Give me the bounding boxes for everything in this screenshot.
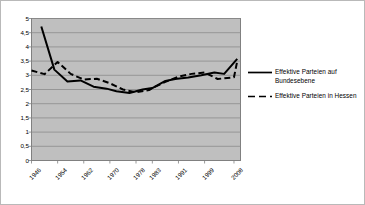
chart-card: 54,543,532,521,510,50 194619541962197019…	[0, 0, 365, 205]
legend-label-hessen: Effektive Parteien in Hessen	[275, 91, 357, 100]
chart-legend: Effektive Parteien auf Bundesebene Effek…	[248, 67, 364, 107]
legend-label-bundesebene: Effektive Parteien auf Bundesebene	[275, 67, 364, 85]
legend-item-hessen: Effektive Parteien in Hessen	[248, 91, 364, 101]
legend-line-dashed-icon	[248, 92, 272, 101]
legend-line-solid-icon	[248, 68, 272, 77]
line-chart: 54,543,532,521,510,50 194619541962197019…	[1, 1, 365, 205]
legend-item-bundesebene: Effektive Parteien auf Bundesebene	[248, 67, 364, 85]
